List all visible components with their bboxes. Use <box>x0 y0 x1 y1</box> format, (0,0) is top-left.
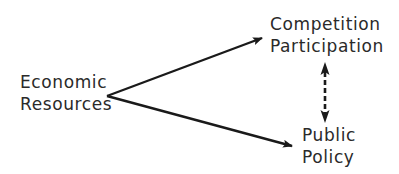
node-economic-resources: Economic Resources <box>20 71 112 115</box>
node-public-policy-line2: Policy <box>302 146 356 168</box>
node-competition-participation-line1: Competition <box>270 13 384 35</box>
diagram-canvas: Economic Resources Competition Participa… <box>0 0 399 174</box>
node-public-policy: Public Policy <box>302 124 356 168</box>
node-economic-resources-line1: Economic <box>20 71 112 93</box>
node-competition-participation: Competition Participation <box>270 13 384 57</box>
node-public-policy-line1: Public <box>302 124 356 146</box>
arrow-to-public-policy <box>107 96 292 146</box>
arrow-to-competition-participation <box>107 38 262 96</box>
node-competition-participation-line2: Participation <box>270 35 384 57</box>
arrowhead-down-icon <box>321 110 330 123</box>
node-economic-resources-line2: Resources <box>20 93 112 115</box>
dashed-double-arrow <box>321 62 330 123</box>
